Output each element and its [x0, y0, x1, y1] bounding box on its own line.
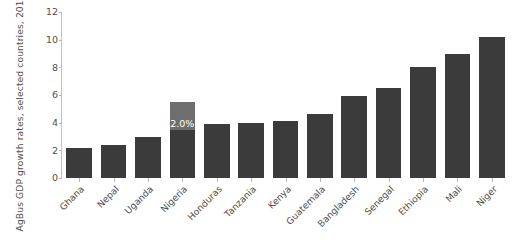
x-axis-tick-mark: [217, 178, 218, 182]
bar[interactable]: [445, 54, 471, 179]
bar-group[interactable]: [66, 12, 92, 178]
bars-layer: 2.0%: [62, 12, 509, 178]
bar[interactable]: [135, 137, 161, 179]
bar-group[interactable]: [273, 12, 299, 178]
x-axis-tick-mark: [354, 178, 355, 182]
x-axis-tick-mark: [148, 178, 149, 182]
x-axis-tick-mark: [182, 178, 183, 182]
x-axis-tick-mark: [251, 178, 252, 182]
bar-value-label: 2.0%: [170, 119, 194, 129]
bar-chart-figure: AgBus GDP growth rates, selected countri…: [0, 0, 515, 250]
bar-group[interactable]: [341, 12, 367, 178]
x-axis: GhanaNepalUgandaNigeriaHondurasTanzaniaK…: [62, 178, 509, 250]
x-axis-tick-mark: [457, 178, 458, 182]
bar[interactable]: [479, 37, 505, 178]
x-axis-tick-mark: [114, 178, 115, 182]
bar[interactable]: [376, 88, 402, 178]
bar[interactable]: [204, 124, 230, 178]
x-axis-tick-mark: [320, 178, 321, 182]
bar-group[interactable]: [307, 12, 333, 178]
bar[interactable]: [238, 123, 264, 178]
bar-group[interactable]: [410, 12, 436, 178]
bar[interactable]: [410, 67, 436, 178]
bar[interactable]: [341, 96, 367, 178]
bar-group[interactable]: [238, 12, 264, 178]
x-axis-tick-mark: [423, 178, 424, 182]
bar[interactable]: [66, 148, 92, 178]
plot-area: 024681012 2.0%: [62, 12, 509, 178]
bar-group[interactable]: [376, 12, 402, 178]
bar[interactable]: [307, 114, 333, 178]
x-axis-tick-mark: [79, 178, 80, 182]
bar[interactable]: [273, 121, 299, 178]
bar-group[interactable]: [135, 12, 161, 178]
bar-group[interactable]: [479, 12, 505, 178]
x-axis-tick-mark: [492, 178, 493, 182]
x-axis-tick-mark: [286, 178, 287, 182]
y-axis-title: AgBus GDP growth rates, selected countri…: [0, 0, 38, 190]
x-axis-tick-mark: [389, 178, 390, 182]
bar-group[interactable]: 2.0%: [170, 12, 196, 178]
bar[interactable]: [101, 145, 127, 178]
bar-group[interactable]: [445, 12, 471, 178]
bar-group[interactable]: [101, 12, 127, 178]
y-axis-title-text: AgBus GDP growth rates, selected countri…: [13, 0, 25, 232]
bar-highlight-segment[interactable]: 2.0%: [170, 102, 196, 130]
bar-group[interactable]: [204, 12, 230, 178]
